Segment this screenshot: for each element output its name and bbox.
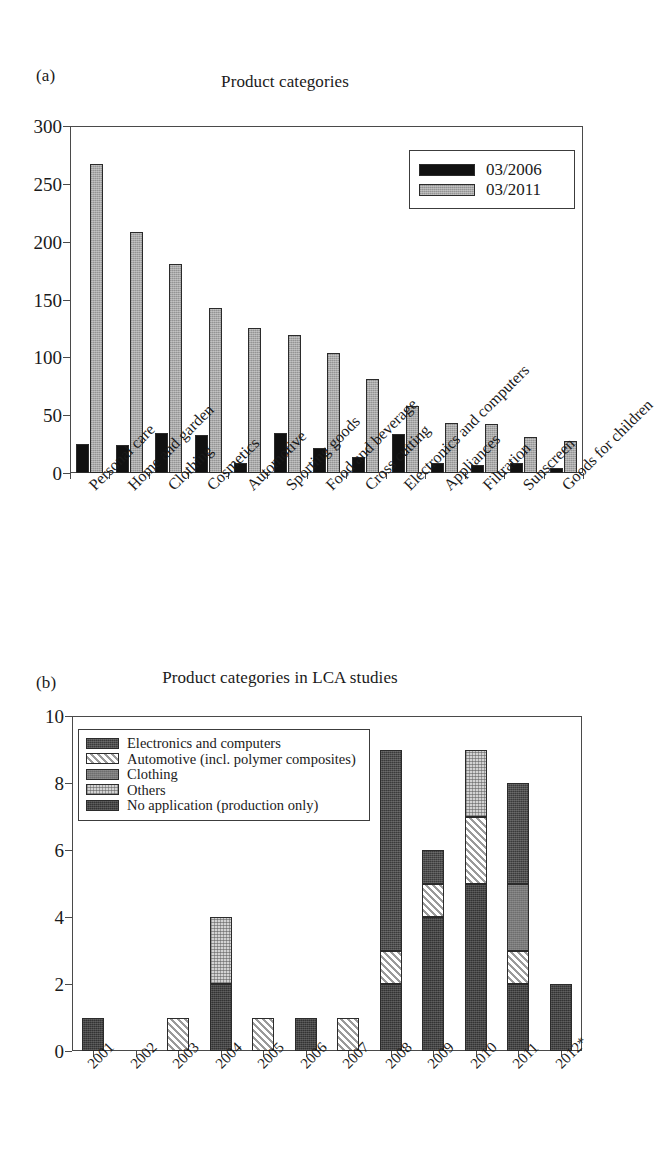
panel-a-ytick-mark [63, 415, 70, 416]
panel-b-legend-item: Automotive (incl. polymer composites) [86, 752, 363, 767]
panel-b-legend-swatch [86, 769, 119, 780]
panel-b-ytick-mark [65, 716, 72, 717]
panel-a-ytick-mark [63, 357, 70, 358]
panel-b-bar-segment [380, 750, 402, 951]
panel-b-ytick-label: 2 [0, 975, 64, 994]
panel-a-ytick-mark [63, 184, 70, 185]
panel-b-ytick-mark [65, 850, 72, 851]
panel-b-title: Product categories in LCA studies [90, 668, 470, 688]
panel-a-legend-label: 03/2011 [486, 181, 541, 198]
panel-b-legend-item: Electronics and computers [86, 736, 363, 751]
panel-a-ytick-label: 50 [0, 406, 62, 425]
panel-b-ytick-label: 6 [0, 841, 64, 860]
panel-b-bar-segment [507, 951, 529, 985]
panel-b-bar-segment [550, 984, 572, 1051]
panel-b-legend-swatch [86, 784, 119, 795]
panel-a-xtick-mark [70, 473, 71, 479]
panel-b-ytick-label: 0 [0, 1042, 64, 1061]
panel-b-bar [465, 750, 487, 1052]
panel-b-bar [422, 850, 444, 1051]
panel-b-bar-segment [465, 884, 487, 1052]
panel-a-ytick-label: 150 [0, 290, 62, 309]
panel-b-letter: (b) [36, 673, 56, 693]
panel-a-ytick-mark [63, 300, 70, 301]
panel-b-ytick-label: 10 [0, 707, 64, 726]
panel-b-legend-label: Electronics and computers [127, 736, 281, 751]
panel-a-ytick-label: 0 [0, 464, 62, 483]
panel-a-legend-item: 03/2006 [419, 161, 565, 178]
panel-b-ytick-mark [65, 984, 72, 985]
panel-b-ytick-mark [65, 783, 72, 784]
panel-b-legend-item: Clothing [86, 767, 363, 782]
panel-b-legend-swatch [86, 753, 119, 764]
panel-a-ytick-label: 250 [0, 174, 62, 193]
panel-a-ytick-label: 100 [0, 348, 62, 367]
panel-b-legend-label: Automotive (incl. polymer composites) [127, 752, 356, 767]
panel-b-bar [210, 917, 232, 1051]
panel-b-bar [507, 783, 529, 1051]
panel-a-legend-swatch [419, 164, 475, 176]
panel-b-bar-segment [422, 850, 444, 883]
panel-b-ytick-mark [65, 1051, 72, 1052]
panel-b-bar [380, 750, 402, 1052]
panel-a-ytick-label: 200 [0, 232, 62, 251]
panel-b-legend-swatch [86, 738, 119, 749]
panel-b-bar-segment [380, 951, 402, 984]
panel-b-bar-segment [465, 817, 487, 884]
panel-a-legend: 03/200603/2011 [409, 150, 575, 209]
panel-b-legend-label: Clothing [127, 767, 178, 782]
panel-a-ytick-mark [63, 473, 70, 474]
panel-b-bar-segment [465, 750, 487, 817]
panel-b-bar-segment [507, 984, 529, 1051]
panel-b-ytick-label: 4 [0, 908, 64, 927]
panel-b-legend-item: No application (production only) [86, 798, 363, 813]
panel-a-letter: (a) [36, 66, 55, 86]
panel-b-bar-segment [507, 783, 529, 884]
panel-b-bar-segment [422, 884, 444, 917]
panel-b-legend-label: No application (production only) [127, 798, 318, 813]
panel-a-bar [90, 164, 103, 473]
panel-b-bar-segment [210, 984, 232, 1051]
panel-b-legend-label: Others [127, 783, 166, 798]
panel-b-bar-segment [422, 917, 444, 1051]
panel-product-categories: (a) Product categories 05010015020025030… [0, 0, 607, 640]
panel-b-legend-swatch [86, 800, 119, 811]
panel-b-bar-segment [210, 917, 232, 984]
panel-b-ytick-mark [65, 917, 72, 918]
panel-a-legend-label: 03/2006 [486, 161, 542, 178]
panel-a-legend-swatch [419, 184, 475, 196]
panel-b-bar-segment [507, 884, 529, 951]
panel-a-legend-item: 03/2011 [419, 181, 565, 198]
panel-a-bar [76, 444, 89, 473]
panel-a-title: Product categories [120, 72, 450, 92]
panel-a-ytick-mark [63, 242, 70, 243]
panel-b-ytick-label: 8 [0, 774, 64, 793]
panel-a-ytick-label: 300 [0, 117, 62, 136]
panel-b-bar-segment [380, 984, 402, 1051]
panel-b-legend: Electronics and computersAutomotive (inc… [78, 729, 370, 821]
panel-b-legend-item: Others [86, 783, 363, 798]
panel-a-ytick-mark [63, 126, 70, 127]
panel-b-bar [550, 984, 572, 1051]
